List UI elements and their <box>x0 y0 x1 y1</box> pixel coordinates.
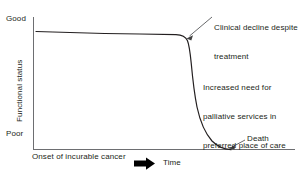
x-axis-title: Time <box>163 158 181 168</box>
illness-trajectory-figure: Good Poor Functional status Onset of inc… <box>0 0 301 178</box>
annotation-palliative-need-line1: Increased need for <box>203 83 299 93</box>
right-arrow-icon <box>134 158 155 170</box>
y-axis-tick-good: Good <box>6 14 26 24</box>
y-axis-title: Functional status <box>15 49 25 133</box>
annotation-palliative-need-line2: palliative services in <box>203 112 299 122</box>
annotation-palliative-need: Increased need for palliative services i… <box>203 64 299 170</box>
annotation-clinical-decline-line2: treatment <box>214 52 300 62</box>
annotation-death: Death <box>247 134 269 144</box>
x-axis-origin-label: Onset of incurable cancer <box>32 152 126 162</box>
annotation-clinical-decline-line1: Clinical decline despite <box>214 23 300 33</box>
functional-status-curve <box>36 32 231 150</box>
clinical-decline-leader-line <box>190 17 213 36</box>
